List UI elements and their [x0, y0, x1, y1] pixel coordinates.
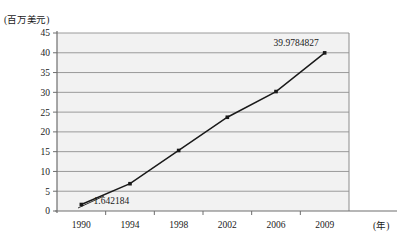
- x-tick-label: 2006: [267, 220, 286, 230]
- y-tick-label: 20: [41, 127, 51, 137]
- line-chart: (百万美元) (年) 051015202530354045 1990199419…: [0, 0, 411, 248]
- data-point-marker: [274, 90, 278, 94]
- x-axis-ticks: 199019941998200220062009: [72, 211, 335, 230]
- y-axis-ticks: 051015202530354045: [41, 28, 58, 216]
- y-tick-label: 15: [41, 147, 51, 157]
- x-tick-label: 2002: [218, 220, 237, 230]
- x-tick-label: 1994: [121, 220, 140, 230]
- data-point-marker: [177, 149, 181, 153]
- y-tick-label: 5: [45, 187, 50, 197]
- x-tick-label: 2009: [315, 220, 334, 230]
- x-tick-label: 1998: [169, 220, 188, 230]
- plot-background: [57, 33, 349, 211]
- y-tick-label: 30: [41, 88, 51, 98]
- y-tick-label: 0: [45, 206, 50, 216]
- data-point-marker: [323, 51, 327, 55]
- data-point-marker: [226, 115, 230, 119]
- data-point-value-label: 1.642184: [94, 196, 130, 206]
- data-point-value-label: 39.9784827: [274, 38, 319, 48]
- x-tick-label: 1990: [72, 220, 91, 230]
- data-point-marker: [128, 182, 132, 186]
- chart-plot-area: 051015202530354045 199019941998200220062…: [0, 0, 411, 248]
- y-tick-label: 10: [41, 167, 51, 177]
- y-tick-label: 45: [41, 28, 51, 38]
- y-tick-label: 25: [41, 108, 51, 118]
- y-tick-label: 35: [41, 68, 51, 78]
- y-tick-label: 40: [41, 48, 51, 58]
